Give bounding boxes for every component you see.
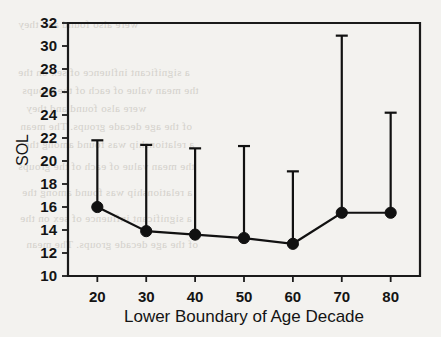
- y-tick-label: 32: [40, 14, 57, 31]
- y-tick-label: 16: [40, 198, 57, 215]
- y-tick-label: 24: [40, 106, 57, 123]
- y-tick-label: 10: [40, 267, 57, 284]
- data-point: [336, 207, 347, 218]
- x-axis-tick-labels: 20304050607080: [89, 288, 399, 305]
- y-tick-label: 26: [40, 83, 57, 100]
- x-axis-label: Lower Boundary of Age Decade: [124, 307, 364, 326]
- data-point: [287, 238, 298, 249]
- y-tick-label: 20: [40, 152, 57, 169]
- data-point: [141, 226, 152, 237]
- chart-canvas: 101214161820222426283032 20304050607080 …: [0, 0, 441, 337]
- data-point: [238, 232, 249, 243]
- y-axis-label: SOL: [14, 134, 31, 166]
- data-point: [385, 207, 396, 218]
- x-tick-label: 50: [236, 288, 253, 305]
- x-tick-label: 70: [333, 288, 350, 305]
- x-tick-label: 40: [187, 288, 204, 305]
- x-tick-label: 60: [285, 288, 302, 305]
- data-point: [190, 229, 201, 240]
- y-tick-label: 14: [40, 221, 57, 238]
- x-tick-label: 20: [89, 288, 106, 305]
- x-tick-label: 80: [382, 288, 399, 305]
- x-tick-label: 30: [138, 288, 155, 305]
- data-point: [92, 201, 103, 212]
- y-tick-label: 30: [40, 37, 57, 54]
- figure-panel: a significant influence of sex on the th…: [0, 0, 441, 337]
- y-tick-label: 18: [40, 175, 57, 192]
- y-tick-label: 28: [40, 60, 57, 77]
- y-tick-label: 12: [40, 244, 57, 261]
- y-axis-tick-labels: 101214161820222426283032: [40, 14, 57, 284]
- y-tick-label: 22: [40, 129, 57, 146]
